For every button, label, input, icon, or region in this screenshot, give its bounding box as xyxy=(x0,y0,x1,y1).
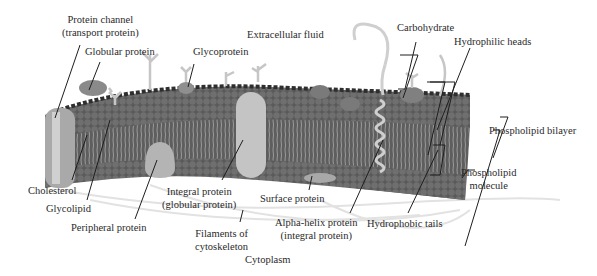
glycoprotein-shape xyxy=(178,82,194,94)
label-text: molecule xyxy=(461,179,516,192)
globular-protein-shape xyxy=(79,80,107,96)
label-extracellular-fluid: Extracellular fluid xyxy=(247,28,324,41)
label-text: Phospholipid xyxy=(461,166,516,179)
label-carbohydrate: Carbohydrate xyxy=(397,21,454,34)
label-glycoprotein: Glycoprotein xyxy=(193,45,248,58)
label-peripheral-protein: Peripheral protein xyxy=(71,221,147,234)
label-globular-protein: Globular protein xyxy=(85,45,155,58)
label-text: Protein channel xyxy=(62,13,139,26)
peripheral-protein-shape xyxy=(145,142,175,178)
label-surface-protein: Surface protein xyxy=(260,192,324,205)
label-filaments-of-cytoskeleton: Filaments of cytoskeleton xyxy=(195,227,248,253)
label-text: Filaments of xyxy=(195,227,248,240)
cell-membrane-diagram: Protein channel (transport protein) Glob… xyxy=(0,0,597,276)
surface-protein-shape xyxy=(304,173,336,183)
label-text: cytoskeleton xyxy=(195,240,248,253)
label-hydrophilic-heads: Hydrophilic heads xyxy=(454,35,531,48)
label-text: Alpha-helix protein xyxy=(275,216,358,229)
label-text: Integral protein xyxy=(162,185,236,198)
label-integral-protein: Integral protein (globular protein) xyxy=(162,185,236,211)
label-cholesterol: Cholesterol xyxy=(28,184,76,197)
label-phospholipid-molecule: Phospholipid molecule xyxy=(461,166,516,192)
label-text: (integral protein) xyxy=(275,229,358,242)
label-text: (transport protein) xyxy=(62,26,139,39)
label-cytoplasm: Cytoplasm xyxy=(245,253,291,266)
label-glycolipid: Glycolipid xyxy=(46,202,91,215)
label-text: (globular protein) xyxy=(162,198,236,211)
label-phospholipid-bilayer: Phospholipid bilayer xyxy=(489,124,576,137)
integral-protein-shape xyxy=(236,92,266,178)
label-hydrophobic-tails: Hydrophobic tails xyxy=(367,217,443,230)
label-alpha-helix-protein: Alpha-helix protein (integral protein) xyxy=(275,216,358,242)
label-protein-channel: Protein channel (transport protein) xyxy=(62,13,139,39)
